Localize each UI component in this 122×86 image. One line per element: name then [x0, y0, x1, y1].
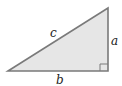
hypotenuse-label: c	[50, 26, 57, 40]
right-triangle-diagram: c a b	[0, 0, 122, 86]
vertical-leg-label: a	[111, 34, 118, 48]
horizontal-leg-label: b	[56, 73, 64, 86]
triangle-shape	[8, 8, 108, 71]
